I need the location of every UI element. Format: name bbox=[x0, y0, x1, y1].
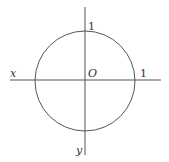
y-axis-label: y bbox=[75, 144, 83, 157]
x-tick-label-1: 1 bbox=[140, 67, 147, 80]
unit-circle-diagram: 1 x O 1 y bbox=[0, 0, 169, 162]
x-axis-label: x bbox=[10, 67, 17, 80]
origin-label: O bbox=[88, 67, 97, 80]
y-tick-label-1: 1 bbox=[88, 20, 95, 33]
diagram-svg: 1 x O 1 y bbox=[0, 0, 169, 162]
